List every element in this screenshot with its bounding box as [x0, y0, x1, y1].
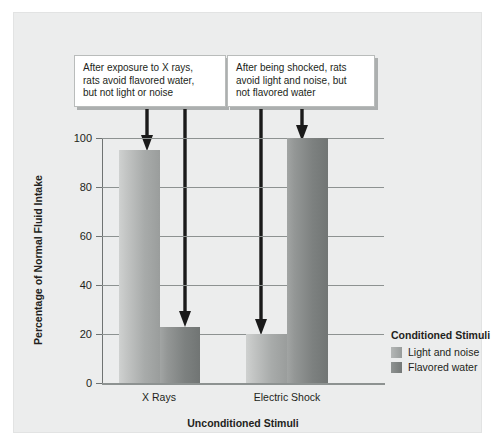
callout-electric-shock-line-3: not flavored water [236, 87, 367, 100]
ytick-mark-100 [96, 138, 102, 139]
x-axis-line [102, 383, 385, 385]
plot-area: 100 80 60 40 20 0 [102, 138, 384, 383]
legend: Conditioned Stimuli Light and noise Flav… [391, 329, 490, 376]
ytick-mark-0 [96, 383, 102, 384]
ytick-label-80: 80 [80, 181, 92, 193]
x-axis-title: Unconditioned Stimuli [187, 417, 298, 429]
ytick-label-0: 0 [86, 377, 92, 389]
callout-x-rays: After exposure to X rays, rats avoid fla… [74, 55, 226, 107]
chart-figure: After exposure to X rays, rats avoid fla… [0, 0, 496, 448]
callout-x-rays-line-3: but not light or noise [83, 87, 218, 100]
bar-electric-shock-flavored-water [287, 138, 328, 383]
callout-electric-shock: After being shocked, rats avoid light an… [227, 55, 375, 107]
ytick-mark-20 [96, 334, 102, 335]
chart-panel: After exposure to X rays, rats avoid fla… [13, 12, 482, 433]
bar-x-rays-light-and-noise [119, 150, 160, 383]
callout-x-rays-line-1: After exposure to X rays, [83, 62, 218, 75]
xtick-label-electric-shock: Electric Shock [254, 391, 321, 403]
ytick-label-100: 100 [74, 132, 92, 144]
arrow-electric-shock-dark [295, 109, 309, 141]
ytick-mark-40 [96, 285, 102, 286]
ytick-label-40: 40 [80, 279, 92, 291]
y-axis-title: Percentage of Normal Fluid Intake [32, 175, 44, 345]
ytick-label-20: 20 [80, 328, 92, 340]
gridline-100 [102, 138, 384, 139]
legend-label-flavored-water: Flavored water [408, 361, 477, 373]
ytick-label-60: 60 [80, 230, 92, 242]
legend-swatch-flavored-water [391, 362, 402, 373]
callout-electric-shock-line-2: avoid light and noise, but [236, 75, 367, 88]
ytick-mark-80 [96, 187, 102, 188]
legend-title: Conditioned Stimuli [391, 329, 490, 341]
bar-electric-shock-light-and-noise [246, 334, 287, 383]
legend-label-light-and-noise: Light and noise [408, 346, 479, 358]
bar-x-rays-flavored-water [160, 327, 200, 383]
legend-swatch-light-and-noise [391, 347, 402, 358]
ytick-mark-60 [96, 236, 102, 237]
callout-x-rays-line-2: rats avoid flavored water, [83, 75, 218, 88]
legend-item-flavored-water: Flavored water [391, 361, 490, 373]
legend-item-light-and-noise: Light and noise [391, 346, 490, 358]
xtick-label-x-rays: X Rays [142, 391, 176, 403]
callout-electric-shock-line-1: After being shocked, rats [236, 62, 367, 75]
